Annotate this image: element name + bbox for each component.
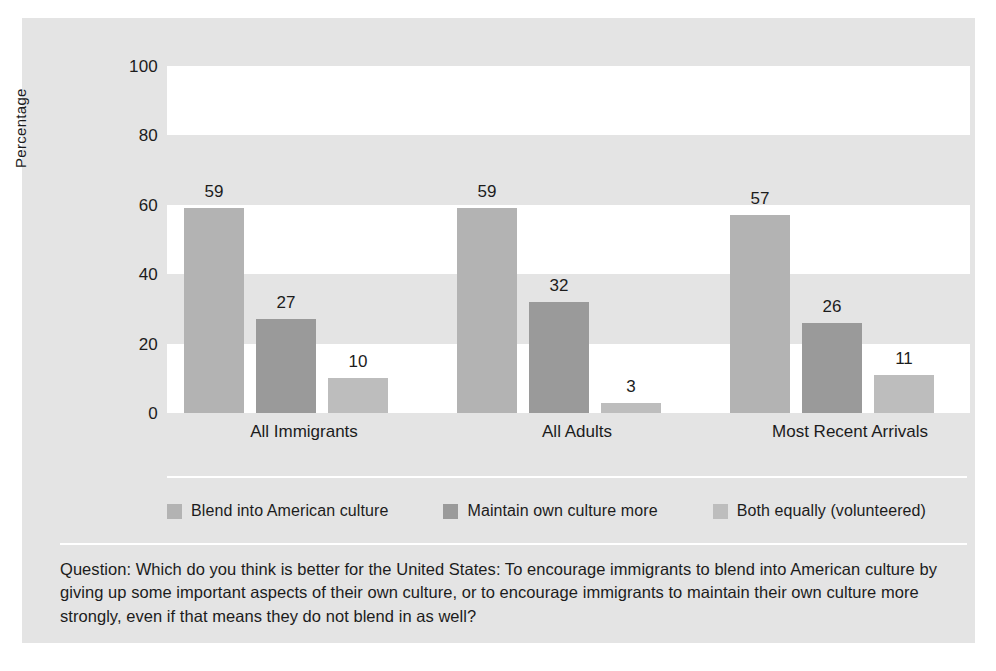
legend-swatch-icon: [713, 504, 728, 519]
bar-all-immigrants-maintain[interactable]: 27: [256, 319, 316, 413]
bar-all-adults-maintain[interactable]: 32: [529, 302, 589, 413]
bar-group-all-adults: 59 32 3: [457, 66, 697, 413]
bar-all-adults-blend[interactable]: 59: [457, 208, 517, 413]
bar-all-adults-both[interactable]: 3: [601, 403, 661, 413]
bar-all-immigrants-both[interactable]: 10: [328, 378, 388, 413]
bar-most-recent-both[interactable]: 11: [874, 375, 934, 413]
legend-label: Blend into American culture: [191, 502, 388, 520]
divider-above-question: [60, 543, 967, 545]
divider-above-legend: [167, 476, 967, 478]
question-footnote: Question: Which do you think is better f…: [60, 558, 960, 628]
bar-most-recent-maintain[interactable]: 26: [802, 323, 862, 413]
chart-figure: Percentage 100 80 60 40 20 0 59 27 10: [0, 0, 996, 671]
y-tick-20: 20: [98, 335, 158, 352]
legend-item-blend[interactable]: Blend into American culture: [167, 502, 388, 520]
x-label-all-adults: All Adults: [542, 422, 612, 442]
bar-group-all-immigrants: 59 27 10: [184, 66, 424, 413]
bar-series-container: 59 27 10 59 32 3: [167, 66, 970, 413]
x-label-most-recent-arrivals: Most Recent Arrivals: [772, 422, 928, 442]
bar-value-label: 26: [823, 298, 842, 315]
bar-group-most-recent-arrivals: 57 26 11: [730, 66, 970, 413]
legend-label: Both equally (volunteered): [737, 502, 926, 520]
legend-swatch-icon: [167, 504, 182, 519]
y-axis-title: Percentage: [12, 88, 29, 168]
bar-value-label: 59: [205, 183, 224, 200]
bar-most-recent-blend[interactable]: 57: [730, 215, 790, 413]
x-label-all-immigrants: All Immigrants: [250, 422, 358, 442]
y-axis-ticks: 100 80 60 40 20 0: [96, 66, 158, 413]
y-tick-80: 80: [98, 127, 158, 144]
bar-value-label: 27: [277, 294, 296, 311]
legend-item-both[interactable]: Both equally (volunteered): [713, 502, 926, 520]
legend-label: Maintain own culture more: [467, 502, 657, 520]
bar-all-immigrants-blend[interactable]: 59: [184, 208, 244, 413]
bar-value-label: 11: [895, 350, 913, 367]
chart-card: Percentage 100 80 60 40 20 0 59 27 10: [22, 18, 975, 643]
bar-value-label: 3: [626, 378, 635, 395]
legend-swatch-icon: [443, 504, 458, 519]
legend-item-maintain[interactable]: Maintain own culture more: [443, 502, 657, 520]
bar-value-label: 59: [478, 183, 497, 200]
bar-value-label: 10: [349, 353, 368, 370]
chart-legend: Blend into American culture Maintain own…: [167, 496, 926, 526]
y-tick-40: 40: [98, 266, 158, 283]
y-tick-60: 60: [98, 196, 158, 213]
x-axis-labels: All Immigrants All Adults Most Recent Ar…: [167, 422, 970, 452]
y-tick-0: 0: [98, 405, 158, 422]
bar-value-label: 57: [751, 190, 770, 207]
y-tick-100: 100: [98, 58, 158, 75]
bar-value-label: 32: [550, 277, 569, 294]
